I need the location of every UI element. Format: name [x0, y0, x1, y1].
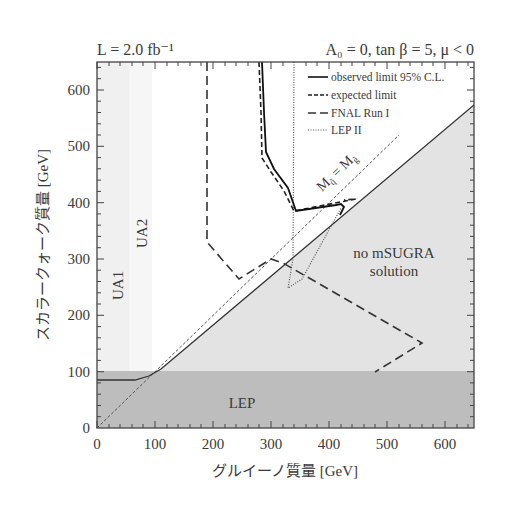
legend-fnal: FNAL Run I	[331, 107, 390, 119]
y-axis-label: スカラークォーク質量 [GeV]	[34, 149, 51, 341]
svg-text:400: 400	[318, 436, 341, 452]
legend-expected: expected limit	[331, 89, 397, 102]
svg-text:300: 300	[260, 436, 283, 452]
chart: L = 2.0 fb⁻¹ A₀ = 0, tan β = 5, μ < 0	[0, 0, 510, 514]
legend: observed limit 95% C.L. expected limit F…	[308, 71, 445, 136]
lep-label: LEP	[229, 395, 256, 411]
legend-lep2: LEP II	[331, 124, 362, 136]
observed-curve	[262, 62, 344, 215]
ua1-label: UA1	[110, 271, 126, 300]
svg-text:500: 500	[68, 138, 91, 154]
svg-text:Mq̃ = Mg̃: Mq̃ = Mg̃	[314, 149, 361, 195]
mq-eq-mg-label: Mq̃ = Mg̃	[314, 149, 361, 195]
y-tick-labels: 0 100 200 300 400 500 600	[68, 82, 91, 436]
svg-text:400: 400	[68, 195, 91, 211]
svg-text:0: 0	[83, 420, 91, 436]
x-axis-label: グルイーノ質量 [GeV]	[212, 462, 358, 479]
ua2-label: UA2	[134, 219, 150, 248]
svg-text:100: 100	[68, 364, 91, 380]
svg-text:300: 300	[68, 251, 91, 267]
svg-text:200: 200	[202, 436, 225, 452]
luminosity-label: L = 2.0 fb⁻¹	[97, 41, 174, 58]
svg-text:600: 600	[434, 436, 457, 452]
svg-text:0: 0	[93, 436, 101, 452]
lep-region	[97, 371, 474, 428]
svg-text:200: 200	[68, 307, 91, 323]
expected-curve	[259, 62, 356, 211]
legend-observed: observed limit 95% C.L.	[331, 71, 445, 83]
svg-text:100: 100	[144, 436, 167, 452]
svg-text:500: 500	[376, 436, 399, 452]
no-msugra-label-2: solution	[370, 263, 419, 279]
svg-text:600: 600	[68, 82, 91, 98]
parameter-label: A₀ = 0, tan β = 5, μ < 0	[326, 41, 474, 59]
x-tick-labels: 0 100 200 300 400 500 600	[93, 436, 456, 452]
no-msugra-label: no mSUGRA	[353, 245, 434, 261]
